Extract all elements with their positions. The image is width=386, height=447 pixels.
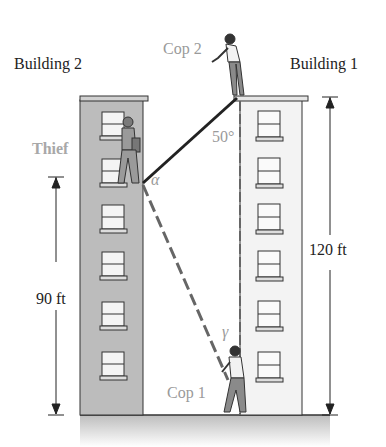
ground (80, 415, 330, 447)
label-building-2: Building 2 (14, 55, 82, 73)
label-height-120ft: 120 ft (309, 241, 347, 259)
label-angle-50: 50° (212, 128, 234, 146)
cop2-figure (212, 34, 244, 95)
label-height-90ft: 90 ft (36, 290, 66, 308)
label-thief: Thief (32, 140, 68, 158)
label-cop-1: Cop 1 (167, 384, 206, 402)
building-1 (234, 96, 308, 415)
label-building-1: Building 1 (290, 55, 358, 73)
label-cop-2: Cop 2 (163, 40, 202, 58)
label-angle-gamma: γ (222, 323, 228, 341)
label-angle-alpha: α (151, 171, 159, 189)
line-thief-cop1 (143, 185, 228, 380)
